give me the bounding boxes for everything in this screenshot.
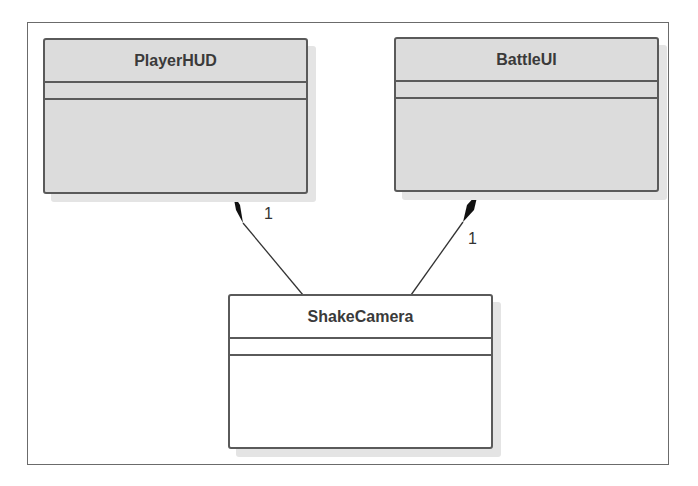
class-playerhud[interactable]: PlayerHUD [43, 38, 308, 194]
composition-line-battleui [411, 222, 463, 295]
class-name: ShakeCamera [230, 296, 491, 339]
class-attributes-compartment [230, 339, 491, 356]
composition-line-playerhud [243, 223, 303, 295]
composition-diamond-battleui-icon [463, 193, 478, 222]
class-attributes-compartment [45, 83, 306, 100]
class-shakecamera[interactable]: ShakeCamera [228, 294, 493, 449]
class-operations-compartment [230, 356, 491, 447]
class-operations-compartment [396, 99, 657, 190]
class-operations-compartment [45, 100, 306, 192]
class-battleui[interactable]: BattleUI [394, 37, 659, 192]
class-name: BattleUI [396, 39, 657, 82]
multiplicity-battleui: 1 [468, 230, 477, 248]
multiplicity-playerhud: 1 [264, 205, 273, 223]
class-name: PlayerHUD [45, 40, 306, 83]
class-attributes-compartment [396, 82, 657, 99]
composition-diamond-playerhud-icon [233, 194, 243, 223]
